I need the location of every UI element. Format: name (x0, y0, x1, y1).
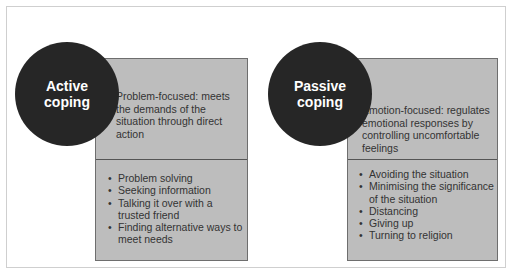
list-item: Talking it over with a trusted friend (108, 197, 246, 222)
list-item: Seeking information (108, 184, 246, 196)
passive-coping-title: Passive (294, 78, 346, 94)
list-item: Problem solving (108, 172, 246, 184)
active-coping-subtitle: coping (44, 94, 90, 110)
passive-coping-list: Avoiding the situation Minimising the si… (359, 168, 497, 242)
list-item: Minimising the significance of the situa… (359, 180, 497, 205)
passive-coping-circle: Passivecoping (268, 42, 372, 146)
passive-coping-subtitle: coping (297, 94, 343, 110)
active-coping-list: Problem solving Seeking information Talk… (108, 172, 246, 246)
list-item: Distancing (359, 205, 497, 217)
list-item: Finding alternative ways to meet needs (108, 221, 246, 246)
active-coping-title: Active (46, 78, 88, 94)
list-item: Turning to religion (359, 229, 497, 241)
list-item: Giving up (359, 217, 497, 229)
passive-coping-description: Emotion-focused: regulates emotional res… (362, 104, 496, 154)
active-coping-circle: Activecoping (15, 42, 119, 146)
list-item: Avoiding the situation (359, 168, 497, 180)
active-coping-description: Problem-focused: meets the demands of th… (116, 90, 244, 140)
